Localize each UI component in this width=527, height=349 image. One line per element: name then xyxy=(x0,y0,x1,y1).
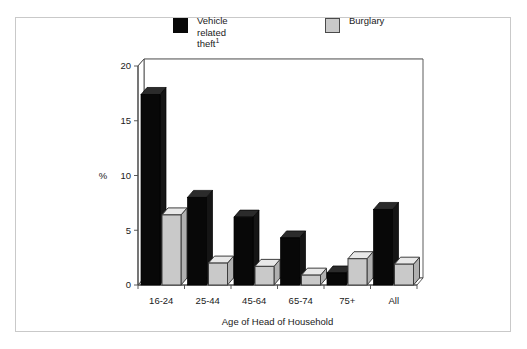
x-axis-title: Age of Head of Household xyxy=(222,316,333,327)
x-tick-label: 25-44 xyxy=(196,295,220,306)
y-tick-label: 20 xyxy=(120,60,131,71)
bar-all-series-1 xyxy=(395,257,420,285)
bar-16-24-series-1 xyxy=(162,208,187,285)
y-tick-label: 10 xyxy=(120,170,131,181)
bar-75plus-series-1 xyxy=(348,252,373,285)
bar-65-74-series-1 xyxy=(302,268,327,285)
x-tick-label: 16-24 xyxy=(149,295,173,306)
y-axis-title: % xyxy=(99,170,108,181)
y-tick-label: 15 xyxy=(120,115,131,126)
bar-25-44-series-1 xyxy=(209,256,234,285)
plot-area: 0510152016-2425-4445-6465-7475+All %Age … xyxy=(0,0,527,349)
x-tick-label: All xyxy=(388,295,399,306)
bar-45-64-series-1 xyxy=(255,259,280,285)
y-tick-label: 0 xyxy=(126,279,131,290)
x-tick-label: 45-64 xyxy=(242,295,266,306)
x-tick-label: 75+ xyxy=(339,295,356,306)
bar-chart-svg: 0510152016-2425-4445-6465-7475+All %Age … xyxy=(0,0,527,349)
chart-figure: Vehiclerelated theft1 Burglary 051015201… xyxy=(0,0,527,349)
y-tick-label: 5 xyxy=(126,225,131,236)
x-tick-label: 65-74 xyxy=(289,295,313,306)
